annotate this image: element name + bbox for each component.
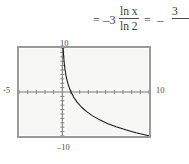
equals-sign-second: = — [144, 13, 151, 28]
coefficient-negative-three-first: –3 — [103, 12, 115, 28]
fraction-bar-first — [119, 18, 139, 19]
axis-label-y-min: –10 — [57, 142, 70, 152]
fraction-bar-clipped — [172, 18, 189, 19]
axis-label-x-min: -5 — [3, 85, 10, 95]
fraction-ln-x-over-ln-2: ln x ln 2 — [119, 5, 139, 33]
axis-label-x-max: 10 — [156, 85, 165, 95]
graph-plot — [19, 48, 149, 136]
minus-sign-second: – — [157, 12, 163, 28]
fraction-denominator-ln-2: ln 2 — [119, 20, 139, 32]
calculator-screen — [18, 47, 150, 137]
equals-sign-first: = — [93, 13, 100, 28]
equation-expression: = –3 ln x ln 2 = – 3 — [0, 0, 189, 40]
fraction-numerator-clipped: 3 — [172, 5, 189, 17]
graphing-calculator-figure: 10 -5 10 –10 — [0, 38, 189, 164]
fraction-clipped-right-edge: 3 — [172, 5, 189, 20]
x-axis — [19, 90, 149, 94]
fraction-numerator-ln-x: ln x — [119, 5, 139, 17]
